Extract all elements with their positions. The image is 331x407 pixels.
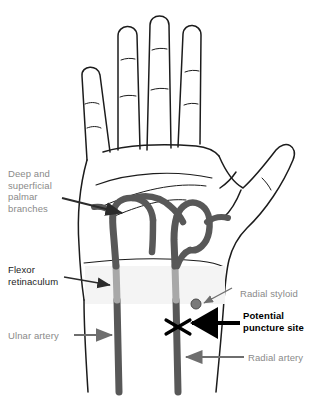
ulnar-artery-palmar-ascent	[113, 214, 116, 266]
palm-knuckle-line	[103, 145, 219, 156]
little-crease-lower	[87, 127, 101, 129]
index-crease-upper	[121, 58, 135, 60]
label-radial-styloid: Radial styloid	[240, 288, 298, 300]
little-crease-upper	[85, 103, 99, 105]
figure-canvas: Deep and superficial palmar branches Fle…	[0, 0, 331, 407]
thumb-crease	[262, 178, 271, 190]
ulnar-artery-retinaculum-segment	[116, 266, 117, 300]
label-deep-superficial-palmar-branches: Deep and superficial palmar branches	[8, 168, 52, 214]
middle-crease-lower	[151, 88, 168, 90]
label-flexor-retinaculum: Flexor retinaculum	[8, 264, 58, 287]
radial-artery-palmar-ascent	[174, 216, 177, 266]
thumb-outline	[219, 145, 294, 300]
label-potential-puncture-site: Potential puncture site	[243, 310, 304, 333]
radial-artery-loop-to-wrist	[177, 250, 190, 266]
label-radial-artery: Radial artery	[248, 352, 303, 364]
thenar-crease	[224, 190, 241, 217]
ulnar-artery-trunk	[117, 300, 119, 392]
label-ulnar-artery: Ulnar artery	[8, 330, 59, 342]
palmar-arch-right-stub	[207, 217, 228, 222]
index-finger-outline	[118, 26, 140, 150]
ring-crease-lower	[184, 103, 198, 105]
radial-artery-retinaculum-segment	[175, 266, 176, 300]
deep-branch-descending	[152, 220, 153, 252]
radial-palmar-arch-loop	[177, 203, 210, 251]
wrist-crease-line	[84, 259, 224, 267]
wrist-left-edge	[84, 300, 88, 392]
wrist-right-edge	[216, 300, 224, 392]
ring-crease-upper	[185, 70, 199, 72]
radial-styloid-dot	[191, 299, 201, 309]
middle-finger-outline	[147, 16, 171, 150]
ring-finger-outline	[178, 25, 201, 147]
middle-crease-upper	[152, 48, 167, 50]
index-crease-lower	[120, 95, 136, 97]
little-finger-outline	[82, 67, 110, 160]
radial-artery-trunk	[176, 300, 178, 392]
palm-crease-distal	[96, 173, 212, 185]
